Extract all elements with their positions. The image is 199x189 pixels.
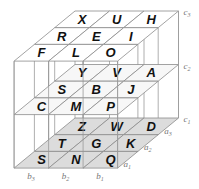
cell-letter: R [57,29,67,44]
cell-letter: K [126,136,137,151]
cell-letter: A [145,65,155,80]
cell-letter: N [71,152,81,167]
letter-cube-diagram: ZWDTGKSNQc1YVASBJCMPc2XUHREIFLOc3a3a2a1b… [0,0,199,189]
cell-letter: Z [77,119,87,134]
cell-letter: E [92,29,101,44]
cell-letter: S [57,82,66,97]
row-label-a3: a3 [164,126,172,137]
cube-drawing: ZWDTGKSNQc1YVASBJCMPc2XUHREIFLOc3a3a2a1b… [0,0,199,189]
row-label-a2: a2 [144,142,152,153]
cell-letter: P [106,99,115,114]
cell-letter: U [112,12,122,27]
layer-c2: YVASBJCMP [14,65,178,115]
cell-letter: B [92,82,101,97]
layer-label-c2: c2 [184,61,191,72]
cell-letter: H [146,12,156,27]
cell-letter: O [105,45,115,60]
cell-letter: J [127,82,135,97]
cell-letter: C [37,99,47,114]
layer-label-c1: c1 [184,114,191,125]
cell-letter: L [72,45,80,60]
cell-letter: S [37,152,46,167]
cell-letter: G [91,136,101,151]
row-label-a1: a1 [124,159,132,170]
cell-letter: T [58,136,67,151]
column-label-b3: b3 [27,171,34,182]
cell-letter: F [38,45,47,60]
cell-letter: Q [105,152,115,167]
cell-letter: D [146,119,156,134]
layer-c1: ZWDTGKSNQ [14,118,178,168]
layer-label-c3: c3 [184,7,191,18]
layer-c3: XUHREIFLO [14,11,178,61]
column-label-b1: b1 [96,171,104,182]
column-label-b2: b2 [62,171,70,182]
cell-letter: I [129,29,133,44]
cell-letter: X [77,12,88,27]
cell-letter: M [71,99,83,114]
